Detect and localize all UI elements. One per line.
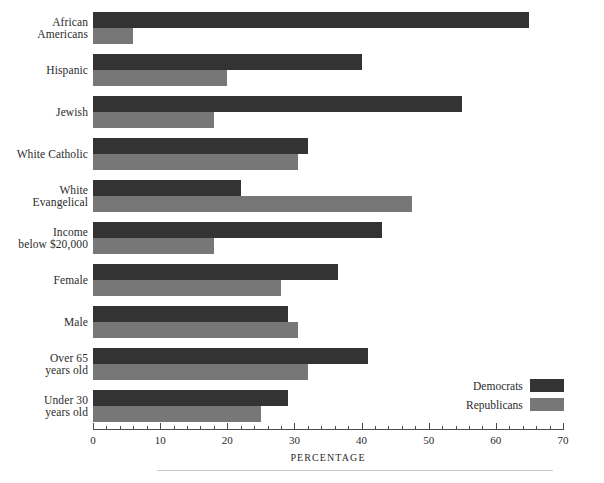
x-axis-minor-tick	[469, 426, 470, 430]
category-label-line: Over 65	[2, 352, 88, 365]
category-label-line: Evangelical	[2, 196, 88, 209]
x-axis-tick-label: 0	[90, 434, 96, 446]
category-label: AfricanAmericans	[2, 16, 88, 41]
x-axis-major-tick	[160, 423, 161, 430]
x-axis-major-tick	[429, 423, 430, 430]
bar-democrats	[93, 222, 382, 238]
x-axis-ticks	[93, 422, 563, 430]
category-label-line: Hispanic	[2, 64, 88, 77]
category-label: Jewish	[2, 106, 88, 119]
bar-group	[93, 96, 563, 129]
legend-item-republicans: Republicans	[466, 397, 564, 412]
legend-swatch-republicans	[530, 398, 564, 411]
bar-republicans	[93, 28, 133, 44]
x-axis-minor-tick	[550, 426, 551, 430]
bar-democrats	[93, 54, 362, 70]
x-axis-minor-tick	[214, 426, 215, 430]
footer-rule	[157, 470, 553, 471]
x-axis-minor-tick	[308, 426, 309, 430]
category-label-line: White	[2, 184, 88, 197]
bar-democrats	[93, 390, 288, 406]
bar-republicans	[93, 196, 412, 212]
x-axis-tick-label: 60	[490, 434, 501, 446]
bar-democrats	[93, 180, 241, 196]
bar-democrats	[93, 12, 529, 28]
bar-republicans	[93, 154, 298, 170]
x-axis-major-tick	[362, 423, 363, 430]
x-axis-minor-tick	[133, 426, 134, 430]
x-axis-minor-tick	[281, 426, 282, 430]
x-axis-minor-tick	[335, 426, 336, 430]
x-axis-minor-tick	[388, 426, 389, 430]
category-label-column: AfricanAmericansHispanicJewishWhite Cath…	[0, 8, 88, 428]
bar-republicans	[93, 280, 281, 296]
bar-group	[93, 222, 563, 255]
x-axis-minor-tick	[321, 426, 322, 430]
bar-group	[93, 138, 563, 171]
x-axis-minor-tick	[442, 426, 443, 430]
bar-republicans	[93, 238, 214, 254]
category-label: Incomebelow $20,000	[2, 226, 88, 251]
x-axis-minor-tick	[187, 426, 188, 430]
x-axis-minor-tick	[254, 426, 255, 430]
bar-group	[93, 180, 563, 213]
x-axis-major-tick	[93, 423, 94, 430]
category-label-line: Under 30	[2, 394, 88, 407]
category-label: Under 30years old	[2, 394, 88, 419]
category-label-line: Female	[2, 274, 88, 287]
x-axis-minor-tick	[536, 426, 537, 430]
bar-republicans	[93, 364, 308, 380]
x-axis-major-tick	[294, 423, 295, 430]
x-axis-minor-tick	[482, 426, 483, 430]
x-axis-minor-tick	[200, 426, 201, 430]
x-axis-tick-label: 30	[289, 434, 300, 446]
bar-republicans	[93, 322, 298, 338]
x-axis-minor-tick	[348, 426, 349, 430]
legend-swatch-democrats	[530, 379, 564, 392]
category-label: WhiteEvangelical	[2, 184, 88, 209]
bar-group	[93, 12, 563, 45]
x-axis-minor-tick	[106, 426, 107, 430]
category-label-line: below $20,000	[2, 238, 88, 251]
category-label: Male	[2, 316, 88, 329]
x-axis-major-tick	[496, 423, 497, 430]
plot-area	[93, 8, 563, 428]
category-label-line: White Catholic	[2, 148, 88, 161]
x-axis-minor-tick	[120, 426, 121, 430]
x-axis-tick-label: 20	[222, 434, 233, 446]
bar-group	[93, 348, 563, 381]
bar-group	[93, 264, 563, 297]
bar-democrats	[93, 138, 308, 154]
legend-label-republicans: Republicans	[466, 399, 523, 411]
category-label-line: Americans	[2, 28, 88, 41]
legend-item-democrats: Democrats	[466, 378, 564, 393]
x-axis-minor-tick	[456, 426, 457, 430]
x-axis-minor-tick	[147, 426, 148, 430]
bar-democrats	[93, 264, 338, 280]
category-label: White Catholic	[2, 148, 88, 161]
x-axis-minor-tick	[415, 426, 416, 430]
bar-republicans	[93, 406, 261, 422]
category-label: Hispanic	[2, 64, 88, 77]
bar-group	[93, 306, 563, 339]
x-axis-tick-label: 40	[356, 434, 367, 446]
bar-republicans	[93, 112, 214, 128]
bar-democrats	[93, 306, 288, 322]
x-axis-minor-tick	[402, 426, 403, 430]
bar-group	[93, 54, 563, 87]
x-axis-minor-tick	[509, 426, 510, 430]
x-axis-tick-label: 50	[423, 434, 434, 446]
category-label-line: years old	[2, 364, 88, 377]
category-label-line: Income	[2, 226, 88, 239]
x-axis-title: PERCENTAGE	[93, 452, 563, 463]
x-axis-minor-tick	[174, 426, 175, 430]
legend-label-democrats: Democrats	[473, 380, 523, 392]
bar-democrats	[93, 348, 368, 364]
bar-chart: AfricanAmericansHispanicJewishWhite Cath…	[0, 0, 604, 483]
bar-democrats	[93, 96, 462, 112]
category-label-line: years old	[2, 406, 88, 419]
x-axis-major-tick	[563, 423, 564, 430]
x-axis-minor-tick	[523, 426, 524, 430]
bar-republicans	[93, 70, 227, 86]
category-label: Female	[2, 274, 88, 287]
